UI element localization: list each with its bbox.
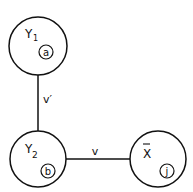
node-xbar-label: X — [143, 147, 151, 161]
node-y1-label: Y — [24, 27, 33, 41]
node-xbar-tag: j — [165, 166, 169, 177]
edge-label-v-prime: v′ — [43, 93, 53, 106]
node-y1-tag: a — [43, 47, 49, 58]
node-y2-subscript: 2 — [32, 150, 38, 160]
node-y2: Y 2 b — [10, 131, 66, 187]
node-y2-tag: b — [45, 166, 51, 177]
node-xbar: X j — [130, 131, 186, 187]
tree-diagram: Y 1 a Y 2 b X j v′ v — [0, 0, 193, 192]
node-y1-subscript: 1 — [33, 34, 38, 43]
node-y1: Y 1 a — [9, 17, 67, 75]
edge-label-v: v — [92, 145, 99, 158]
